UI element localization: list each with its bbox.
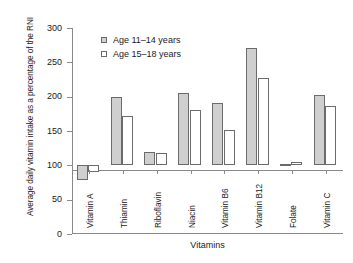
y-axis-title: Average daily vitamin intake as a percen… bbox=[26, 9, 35, 224]
bar bbox=[77, 165, 88, 180]
bar bbox=[325, 106, 336, 165]
legend-swatch-icon-series-1 bbox=[101, 51, 107, 57]
bar bbox=[224, 130, 235, 165]
x-axis-tick-mark bbox=[224, 170, 225, 174]
x-axis-category-label: Vitamin A bbox=[86, 194, 95, 228]
bar bbox=[122, 116, 133, 165]
y-axis-tick-label: 50 bbox=[36, 195, 62, 204]
legend-swatch-icon-series-0 bbox=[101, 37, 107, 43]
y-axis-tick-label: 100 bbox=[36, 161, 62, 170]
bar bbox=[314, 95, 325, 166]
y-axis-tick-label: 0 bbox=[36, 230, 62, 239]
x-axis-category-label: Niacin bbox=[188, 205, 197, 228]
x-axis-category-label: Vitamin C bbox=[323, 193, 332, 228]
bar bbox=[190, 110, 201, 166]
x-axis-category-label: Thiamin bbox=[120, 199, 129, 228]
x-axis-category-label: Folate bbox=[289, 205, 298, 228]
legend-label-series-0: Age 11–14 years bbox=[113, 35, 180, 45]
x-axis-tick-mark bbox=[258, 170, 259, 174]
x-axis-category-label: Vitamin B6 bbox=[221, 189, 230, 228]
x-axis-tick-mark bbox=[292, 170, 293, 174]
bar bbox=[291, 162, 302, 165]
bar bbox=[280, 164, 291, 166]
bar-chart-figure: Average daily vitamin intake as a percen… bbox=[0, 0, 353, 263]
chart-legend: Age 11–14 years Age 15–18 years bbox=[101, 33, 181, 61]
x-axis-tick-mark bbox=[123, 170, 124, 174]
bar bbox=[111, 97, 122, 166]
bar bbox=[212, 103, 223, 165]
y-axis-tick-mark bbox=[67, 234, 72, 235]
y-axis-tick-label: 300 bbox=[36, 24, 62, 33]
x-axis-tick-mark bbox=[157, 170, 158, 174]
legend-entry-age-15-18: Age 15–18 years bbox=[101, 47, 181, 61]
y-axis-tick-label: 150 bbox=[36, 127, 62, 136]
bar bbox=[156, 153, 167, 165]
x-axis-category-label: Riboflavin bbox=[154, 192, 163, 228]
bar bbox=[144, 152, 155, 166]
bar bbox=[178, 93, 189, 166]
bar bbox=[246, 48, 257, 165]
legend-label-series-1: Age 15–18 years bbox=[113, 49, 181, 59]
legend-entry-age-11-14: Age 11–14 years bbox=[101, 33, 181, 47]
x-axis-tick-mark bbox=[326, 170, 327, 174]
x-axis-tick-mark bbox=[191, 170, 192, 174]
y-axis-tick-label: 250 bbox=[36, 58, 62, 67]
bar bbox=[258, 78, 269, 165]
x-axis-title: Vitamins bbox=[72, 240, 343, 250]
y-axis-tick-label: 200 bbox=[36, 92, 62, 101]
x-axis-tick-mark bbox=[89, 170, 90, 174]
x-axis-category-label: Vitamin B12 bbox=[255, 184, 264, 228]
